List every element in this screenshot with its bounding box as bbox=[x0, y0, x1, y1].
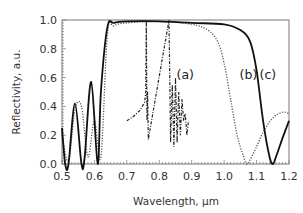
y-axis-title: Reflectivity, a.u. bbox=[10, 49, 22, 134]
x-tick-label: 1.2 bbox=[280, 170, 298, 183]
y-tick-label: 1.0 bbox=[40, 14, 58, 27]
plot-series bbox=[62, 20, 289, 170]
x-axis-title: Wavelength, µm bbox=[133, 195, 219, 207]
y-tick-label: 0.6 bbox=[40, 72, 58, 85]
x-tick-label: 0.5 bbox=[53, 170, 71, 183]
x-tick-label: 0.6 bbox=[86, 170, 104, 183]
axes: 0.50.60.70.80.91.01.11.20.00.20.40.60.81… bbox=[40, 14, 298, 183]
curve-label: (c) bbox=[260, 67, 277, 82]
x-tick-label: 0.9 bbox=[183, 170, 201, 183]
x-tick-label: 0.8 bbox=[151, 170, 169, 183]
series-a bbox=[127, 20, 189, 147]
reflectivity-chart: 0.50.60.70.80.91.01.11.20.00.20.40.60.81… bbox=[0, 0, 303, 213]
x-tick-label: 0.7 bbox=[118, 170, 136, 183]
y-tick-label: 0.4 bbox=[40, 100, 58, 113]
curve-label: (b) bbox=[240, 67, 258, 82]
x-tick-label: 1.1 bbox=[248, 170, 266, 183]
y-tick-label: 0.8 bbox=[40, 43, 58, 56]
y-tick-label: 0.0 bbox=[40, 158, 58, 171]
x-tick-label: 1.0 bbox=[215, 170, 233, 183]
curve-label: (a) bbox=[177, 67, 194, 82]
y-tick-label: 0.2 bbox=[40, 129, 58, 142]
